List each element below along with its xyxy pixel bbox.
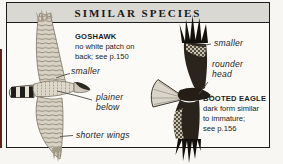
- goshawk-caption-line1: no white patch on: [75, 42, 147, 52]
- booted-eagle-name: BOOTED EAGLE: [203, 94, 271, 104]
- label-rounder-head: rounder head: [212, 59, 243, 79]
- booted-eagle-caption-line2: to immature;: [203, 114, 271, 124]
- label-shorter-wings: shorter wings: [76, 130, 130, 140]
- booted-eagle-caption-line1: dark form similar: [203, 104, 271, 114]
- panel-title: SIMILAR SPECIES: [75, 7, 202, 19]
- label-smaller-left: smaller: [71, 66, 100, 76]
- label-rounder-line2: head: [212, 69, 243, 79]
- label-plainer-below: plainer below: [96, 92, 123, 112]
- goshawk-name: GOSHAWK: [75, 32, 147, 42]
- label-smaller-right: smaller: [214, 38, 243, 48]
- panel-header: SIMILAR SPECIES: [7, 3, 269, 23]
- field-guide-page: { "header": { "title": "SIMILAR SPECIES"…: [0, 0, 283, 164]
- label-rounder-line1: rounder: [212, 59, 243, 69]
- booted-eagle-caption: BOOTED EAGLE dark form similar to immatu…: [203, 94, 271, 134]
- label-plainer-line2: below: [96, 102, 123, 112]
- label-plainer-line1: plainer: [96, 92, 123, 102]
- booted-eagle-caption-line3: see p.156: [203, 124, 271, 134]
- goshawk-caption-line2: back; see p.150: [75, 52, 147, 62]
- goshawk-caption: GOSHAWK no white patch on back; see p.15…: [75, 32, 147, 62]
- page-edge-strip: [0, 49, 2, 148]
